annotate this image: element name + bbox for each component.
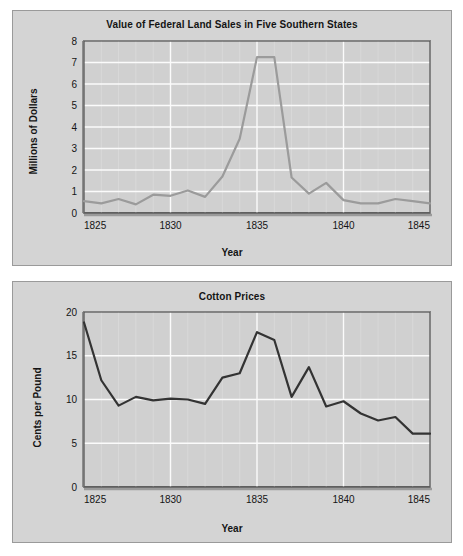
x-tick-label: 1835 [246, 494, 269, 505]
y-tick-label: 5 [71, 100, 77, 111]
y-tick-label: 8 [71, 36, 77, 47]
y-tick-label: 6 [71, 79, 77, 90]
x-tick-label: 1845 [408, 494, 431, 505]
y-tick-label: 3 [71, 143, 77, 154]
y-axis-label-cotton-prices: Cents per Pound [32, 348, 43, 468]
x-tick-label: 1845 [408, 220, 431, 231]
y-tick-label: 1 [71, 186, 77, 197]
chart-title-cotton-prices: Cotton Prices [13, 291, 451, 302]
y-tick-label: 7 [71, 57, 77, 68]
x-tick-label: 1840 [332, 220, 355, 231]
x-tick-label: 1830 [159, 220, 182, 231]
plot-area-cotton-prices: 0510152018251830183518401845 [58, 306, 438, 511]
x-tick-label: 1825 [84, 220, 107, 231]
y-axis-label-land-sales: Millions of Dollars [28, 72, 39, 192]
panel-land-sales: Value of Federal Land Sales in Five Sout… [12, 10, 452, 266]
x-tick-label: 1830 [159, 494, 182, 505]
chart-page: Value of Federal Land Sales in Five Sout… [0, 0, 463, 556]
panel-cotton-prices: Cotton Prices Cents per Pound 0510152018… [12, 281, 452, 543]
y-tick-label: 4 [71, 122, 77, 133]
plot-area-land-sales: 01234567818251830183518401845 [58, 35, 438, 235]
x-tick-label: 1835 [246, 220, 269, 231]
y-tick-label: 5 [71, 438, 77, 449]
y-tick-label: 15 [66, 350, 78, 361]
y-tick-label: 10 [66, 394, 78, 405]
chart-title-land-sales: Value of Federal Land Sales in Five Sout… [13, 19, 451, 30]
x-axis-label-land-sales: Year [13, 247, 451, 258]
y-tick-label: 2 [71, 165, 77, 176]
y-tick-label: 20 [66, 307, 78, 318]
x-tick-label: 1825 [84, 494, 107, 505]
y-tick-label: 0 [71, 208, 77, 219]
x-axis-label-cotton-prices: Year [13, 523, 451, 534]
y-tick-label: 0 [71, 482, 77, 493]
x-tick-label: 1840 [332, 494, 355, 505]
